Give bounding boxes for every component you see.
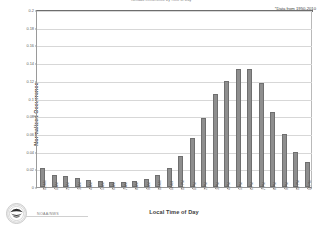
gridline bbox=[37, 29, 312, 30]
x-tick-label: 3 PM bbox=[217, 182, 221, 190]
x-tick-label: 5 PM bbox=[240, 182, 244, 190]
chart-figure: Tornado Occurrence by Time of Day *Data … bbox=[0, 0, 322, 228]
y-tick-mark bbox=[35, 117, 37, 118]
y-tick-mark bbox=[35, 188, 37, 189]
gridline bbox=[37, 82, 312, 83]
bar bbox=[201, 118, 206, 187]
x-tick-label: 10 AM bbox=[159, 180, 163, 190]
y-tick-label: 0.06 bbox=[26, 133, 34, 137]
bar bbox=[247, 69, 252, 187]
x-axis-title: Local Time of Day bbox=[36, 209, 312, 215]
x-tick-label: 10 PM bbox=[297, 180, 301, 190]
y-tick-label: 0.14 bbox=[26, 62, 34, 66]
noaa-seal-icon bbox=[6, 203, 27, 224]
bar bbox=[190, 138, 195, 187]
x-tick-label: 5 AM bbox=[102, 182, 106, 190]
y-tick-label: 0.2 bbox=[29, 9, 34, 13]
x-tick-label: 1 PM bbox=[194, 182, 198, 190]
y-tick-label: 0 bbox=[32, 186, 34, 190]
x-tick-label: 7 PM bbox=[263, 182, 267, 190]
x-tick-label: 12 AM bbox=[44, 180, 48, 190]
x-tick-label: 6 PM bbox=[251, 182, 255, 190]
y-tick-label: 0.04 bbox=[26, 151, 34, 155]
y-tick-mark bbox=[35, 152, 37, 153]
x-tick-label: 2 AM bbox=[67, 182, 71, 190]
y-tick-label: 0.16 bbox=[26, 44, 34, 48]
x-tick-label: 1 AM bbox=[56, 182, 60, 190]
y-tick-mark bbox=[35, 28, 37, 29]
y-tick-mark bbox=[35, 81, 37, 82]
y-tick-label: 0.02 bbox=[26, 168, 34, 172]
gridline bbox=[37, 11, 312, 12]
plot-area: 0.20.180.160.140.120.10.080.060.040.020 … bbox=[36, 11, 312, 188]
chart-title: Tornado Occurrence by Time of Day bbox=[0, 0, 322, 3]
gridline bbox=[37, 100, 312, 101]
x-tick-label: 8 AM bbox=[136, 182, 140, 190]
x-tick-label: 9 AM bbox=[148, 182, 152, 190]
x-tick-label: 7 AM bbox=[125, 182, 129, 190]
noaa-agency-label: NOAA/NWS bbox=[37, 212, 59, 216]
bar bbox=[236, 69, 241, 187]
y-tick-label: 0.12 bbox=[26, 80, 34, 84]
x-tick-label: 4 PM bbox=[228, 182, 232, 190]
gridline bbox=[37, 46, 312, 47]
x-tick-label: 3 AM bbox=[79, 182, 83, 190]
bar bbox=[259, 83, 264, 187]
x-tick-label: 9 PM bbox=[286, 182, 290, 190]
y-tick-mark bbox=[35, 99, 37, 100]
chart-footer: NOAA/NWS bbox=[6, 203, 59, 224]
x-tick-label: 11 AM bbox=[171, 181, 175, 190]
y-tick-label: 0.08 bbox=[26, 115, 34, 119]
x-tick-label: 2 PM bbox=[205, 182, 209, 190]
y-tick-mark bbox=[35, 64, 37, 65]
y-tick-mark bbox=[35, 46, 37, 47]
gridline bbox=[37, 64, 312, 65]
y-tick-label: 0.18 bbox=[26, 27, 34, 31]
y-tick-mark bbox=[35, 134, 37, 135]
x-tick-label: 4 AM bbox=[90, 182, 94, 190]
y-tick-label: 0.1 bbox=[29, 98, 34, 102]
footer-divider bbox=[26, 216, 88, 217]
y-tick-mark bbox=[35, 11, 37, 12]
x-tick-label: 12 PM bbox=[182, 180, 186, 190]
bar bbox=[270, 112, 275, 187]
x-tick-label: 8 PM bbox=[274, 182, 278, 190]
x-tick-label: 6 AM bbox=[113, 182, 117, 190]
bar bbox=[282, 134, 287, 187]
bar bbox=[224, 81, 229, 187]
y-tick-mark bbox=[35, 170, 37, 171]
bar bbox=[213, 94, 218, 187]
x-tick-label: 11 PM bbox=[309, 180, 313, 190]
